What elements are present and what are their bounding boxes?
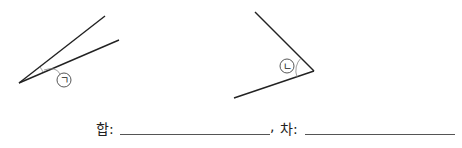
diff-label: 차: [280, 118, 298, 138]
angle-b: ㄴ [234, 12, 314, 98]
sum-blank[interactable] [120, 134, 270, 135]
angle-figures: ㄱ ㄴ [0, 0, 462, 110]
angle-a-label: ㄱ [60, 75, 69, 86]
angle-a: ㄱ [19, 16, 119, 87]
angle-b-label: ㄴ [283, 61, 292, 72]
comma: , [270, 118, 274, 134]
diff-blank[interactable] [305, 134, 455, 135]
answer-row: 합: , 차: [0, 112, 462, 142]
sum-label: 합: [96, 118, 114, 138]
